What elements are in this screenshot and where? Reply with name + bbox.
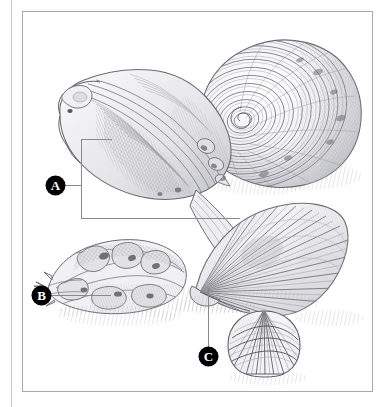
page-canvas: A B C — [0, 0, 384, 407]
plate-frame — [22, 11, 373, 392]
page-gutter-rule — [11, 0, 12, 407]
callout-marker-b[interactable]: B — [32, 286, 51, 305]
callout-c-leader-line — [208, 288, 209, 347]
callout-a-leader-top-arm — [81, 139, 112, 140]
callout-marker-a[interactable]: A — [46, 176, 65, 195]
callout-marker-c[interactable]: C — [199, 347, 218, 366]
callout-b-leader-line — [51, 295, 111, 296]
callout-a-leader-bottom-arm — [81, 218, 240, 219]
callout-a-leader-bracket — [81, 139, 82, 219]
callout-a-leader-stem — [65, 185, 82, 186]
